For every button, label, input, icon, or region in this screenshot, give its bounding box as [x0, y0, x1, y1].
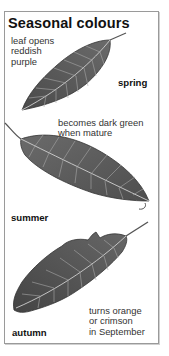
autumn-leaf-illustration — [8, 218, 153, 318]
spring-leaf-illustration — [14, 32, 129, 112]
spring-label: spring — [118, 77, 147, 88]
summer-leaf-illustration — [3, 121, 153, 211]
panel-title: Seasonal colours — [8, 15, 130, 31]
autumn-note: turns orange or crimson in September — [89, 306, 145, 337]
autumn-label: autumn — [12, 327, 47, 338]
